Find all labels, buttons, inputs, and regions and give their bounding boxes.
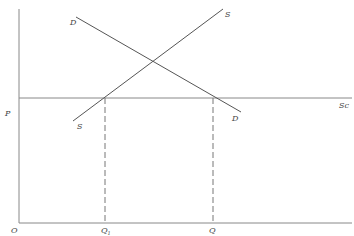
supply-demand-diagram: D S S D Sc P O Q1 Q: [0, 0, 354, 236]
supply-label-bottom: S: [77, 122, 83, 131]
supply-label-top: S: [225, 10, 231, 19]
competitive-supply-label: Sc: [339, 101, 349, 110]
demand-label-bottom: D: [231, 114, 239, 123]
origin-label: O: [11, 226, 18, 235]
supply-curve: [73, 9, 223, 121]
q-label: Q: [209, 226, 216, 235]
q1-label: Q1: [101, 226, 111, 236]
demand-label-top: D: [69, 18, 77, 27]
price-label: P: [4, 109, 11, 118]
q1-label-sub: 1: [108, 230, 111, 236]
